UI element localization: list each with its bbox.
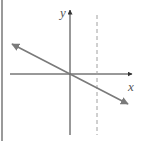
x-axis-label: x (128, 80, 134, 93)
coordinate-plane (0, 0, 141, 141)
y-axis-label: y (60, 6, 66, 19)
